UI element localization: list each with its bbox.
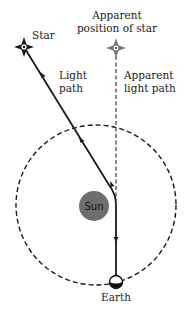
light-path-label-line1: Light [59, 69, 88, 81]
earth-label: Earth [101, 291, 131, 303]
star-label: Star [32, 29, 56, 41]
apparent-star-icon [106, 38, 126, 58]
deflection-diagram: Sun Star Apparent position of star Light… [0, 0, 191, 311]
star-icon [14, 37, 34, 57]
arrow-icon [110, 181, 115, 187]
apparent-path-label-line1: Apparent [123, 69, 174, 81]
arrow-icon [40, 72, 46, 78]
sun-label: Sun [84, 201, 103, 212]
light-path-label-line2: path [59, 82, 83, 94]
arrow-icon [79, 137, 85, 143]
apparent-position-label-line1: Apparent [91, 9, 142, 21]
apparent-path-label-line2: light path [124, 82, 176, 94]
arrow-icon [114, 237, 119, 242]
earth-icon [110, 276, 123, 289]
apparent-position-label-line2: position of star [77, 22, 158, 34]
